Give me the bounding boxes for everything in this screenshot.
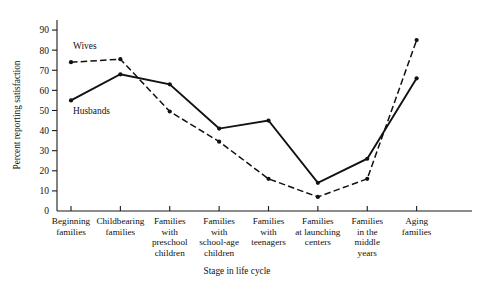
y-axis-ticks: 1020304050607080900 [40,25,58,216]
data-point [217,126,221,130]
data-point [118,72,122,76]
data-point [69,60,73,64]
x-tick-label: with [162,227,179,237]
x-tick-label: Childbearing [96,216,144,226]
data-point [266,118,270,122]
x-tick-label: children [204,248,235,258]
x-tick-label: teenagers [251,237,286,247]
x-tick-label: Families [203,216,235,226]
x-axis-title: Stage in life cycle [204,266,271,276]
x-tick-label: Beginning [52,216,91,226]
x-tick-label: Aging [405,216,428,226]
y-tick-label: 60 [40,86,50,96]
y-tick-label: 70 [40,66,50,76]
x-tick-label: with [211,227,228,237]
x-tick-label: families [106,227,136,237]
data-series-layer [69,38,419,199]
x-tick-label: families [402,227,432,237]
x-tick-label: middle [354,237,380,247]
data-point [365,177,369,181]
data-point [168,109,172,113]
data-point [365,157,369,161]
x-tick-label: with [260,227,277,237]
y-tick-label: 90 [40,25,50,35]
x-tick-label: centers [305,237,331,247]
x-tick-label: school-age [199,237,239,247]
data-point [415,76,419,80]
x-tick-label: Families [154,216,186,226]
y-tick-label: 30 [40,146,50,156]
data-point [316,181,320,185]
x-axis-ticks [71,206,417,211]
y-tick-label: 20 [40,166,50,176]
series-annotations: WivesHusbands [73,41,110,116]
chart-canvas: 1020304050607080900 BeginningfamiliesChi… [0,0,481,281]
data-point [266,177,270,181]
series-label-wives: Wives [73,41,97,51]
x-tick-label: families [56,227,86,237]
x-tick-label: at launching [295,227,341,237]
y-tick-label: 10 [40,186,50,196]
data-point [415,38,419,42]
x-axis-tick-labels: BeginningfamiliesChildbearingfamiliesFam… [52,216,432,258]
y-tick-label: 50 [40,106,50,116]
x-tick-label: Families [351,216,383,226]
y-tick-label: 0 [44,206,49,216]
series-line-wives [71,40,417,197]
series-line-husbands [71,74,417,183]
line-chart: 1020304050607080900 BeginningfamiliesChi… [0,0,481,281]
x-tick-label: Families [253,216,285,226]
data-point [316,195,320,199]
y-tick-label: 40 [40,126,50,136]
y-axis-title: Percent reporting satisfaction [12,60,22,169]
x-tick-label: preschool [152,237,188,247]
y-tick-label: 80 [40,46,50,56]
series-label-husbands: Husbands [73,106,110,116]
data-point [69,98,73,102]
x-tick-label: in the [357,227,378,237]
data-point [168,82,172,86]
x-tick-label: Families [302,216,334,226]
x-tick-label: years [358,248,378,258]
data-point [118,57,122,61]
x-tick-label: children [155,248,186,258]
data-point [217,140,221,144]
